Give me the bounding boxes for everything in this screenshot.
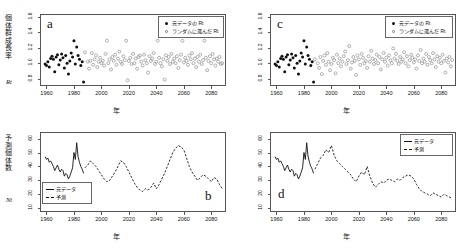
x-tick-mark (414, 86, 415, 89)
x-tick-mark (414, 212, 415, 215)
y-tick-mark (38, 194, 41, 195)
dashed-line-icon (46, 197, 54, 198)
legend-label: 元データの Rt (172, 19, 203, 27)
legend-item: 元データの Rt (389, 19, 449, 27)
y-tick-mark (268, 63, 271, 64)
y-tick-label: 60 (27, 130, 33, 146)
x-tick-label: 2000 (320, 90, 342, 96)
x-tick-mark (74, 212, 75, 215)
legend-item: 予測 (46, 193, 88, 201)
panel-d-xlabel: 年 (326, 231, 366, 241)
panel-c: c 0.81.01.21.41.6 1960198020002020204020… (232, 0, 463, 125)
y-tick-mark (38, 17, 41, 18)
legend-label: 元データの Rt (399, 19, 430, 27)
x-tick-mark (331, 86, 332, 89)
x-tick-mark (359, 86, 360, 89)
x-tick-label: 1980 (63, 90, 85, 96)
panel-c-legend: 元データの Rt ランダムに選んだ Rt (385, 16, 453, 38)
y-tick-mark (268, 79, 271, 80)
y-tick-label: 0.8 (27, 70, 33, 86)
solid-line-icon (404, 141, 412, 142)
x-tick-label: 2020 (118, 90, 140, 96)
x-tick-label: 2040 (375, 216, 397, 222)
y-tick-label: 1.4 (27, 23, 33, 39)
panel-b-xlabel: 年 (96, 231, 136, 241)
x-tick-label: 2080 (200, 90, 222, 96)
x-tick-mark (101, 86, 102, 89)
x-tick-label: 2000 (320, 216, 342, 222)
legend-item: 元データ (46, 185, 88, 193)
x-tick-mark (211, 212, 212, 215)
x-tick-label: 1980 (63, 216, 85, 222)
x-tick-label: 1960 (35, 90, 57, 96)
y-tick-label: 60 (257, 130, 263, 146)
y-tick-mark (38, 63, 41, 64)
x-tick-mark (184, 86, 185, 89)
x-tick-mark (129, 86, 130, 89)
x-tick-mark (441, 86, 442, 89)
x-tick-mark (386, 212, 387, 215)
x-tick-mark (101, 212, 102, 215)
x-tick-mark (276, 86, 277, 89)
x-tick-mark (184, 212, 185, 215)
panel-b-ylabel-symbol: Nt (6, 196, 12, 203)
y-tick-mark (268, 32, 271, 33)
x-tick-label: 2080 (430, 216, 452, 222)
y-tick-mark (38, 48, 41, 49)
y-tick-label: 1.6 (257, 8, 263, 24)
panel-b: 予測個体数 Nt b 102030405060 1960198020002020… (0, 124, 232, 249)
x-tick-mark (74, 86, 75, 89)
panel-d-legend: 元データ 予測 (400, 134, 453, 156)
panel-a-xlabel: 年 (96, 105, 136, 115)
panel-c-xlabel: 年 (326, 105, 366, 115)
x-tick-mark (46, 212, 47, 215)
x-tick-mark (46, 86, 47, 89)
panel-a-ylabel: 個体群成長率 (3, 14, 13, 59)
y-tick-mark (38, 208, 41, 209)
legend-item: 予測 (404, 145, 449, 153)
legend-label: ランダムに選んだ Rt (399, 27, 445, 35)
panel-a-legend: 元データの Rt ランダムに選んだ Rt (158, 16, 224, 38)
x-tick-label: 2060 (403, 90, 425, 96)
x-tick-label: 2060 (403, 216, 425, 222)
y-tick-mark (38, 180, 41, 181)
x-tick-mark (386, 86, 387, 89)
panel-d: d 102030405060 1960198020002020204020602… (232, 124, 463, 249)
y-tick-mark (268, 17, 271, 18)
y-tick-mark (38, 153, 41, 154)
x-tick-mark (276, 212, 277, 215)
panel-a-ylabel-symbol: Rt (6, 78, 12, 85)
x-tick-label: 2040 (145, 216, 167, 222)
dashed-line-icon (404, 149, 412, 150)
y-tick-mark (268, 139, 271, 140)
panel-b-legend: 元データ 予測 (42, 182, 92, 204)
legend-label: 元データ (414, 137, 434, 145)
x-tick-mark (156, 86, 157, 89)
legend-label: ランダムに選んだ Rt (172, 27, 218, 35)
x-tick-label: 2060 (173, 216, 195, 222)
y-tick-label: 0.8 (257, 70, 263, 86)
open-circle-icon (389, 30, 397, 33)
x-tick-mark (359, 212, 360, 215)
x-tick-label: 2000 (90, 216, 112, 222)
y-tick-label: 1.2 (27, 39, 33, 55)
x-tick-label: 1980 (293, 216, 315, 222)
legend-label: 元データ (56, 185, 76, 193)
y-tick-label: 10 (257, 199, 263, 215)
figure-panel-grid: 個体群成長率 Rt a 0.81.01.21.41.6 196019802000… (0, 0, 463, 249)
y-tick-mark (268, 208, 271, 209)
y-tick-mark (38, 166, 41, 167)
legend-item: 元データの Rt (162, 19, 220, 27)
y-tick-mark (38, 32, 41, 33)
x-tick-label: 2020 (118, 216, 140, 222)
y-tick-label: 1.6 (27, 8, 33, 24)
x-tick-mark (331, 212, 332, 215)
x-tick-mark (304, 86, 305, 89)
legend-item: ランダムに選んだ Rt (162, 27, 220, 35)
y-tick-mark (268, 153, 271, 154)
filled-circle-icon (389, 22, 397, 25)
y-tick-label: 1.0 (257, 54, 263, 70)
panel-b-letter: b (205, 188, 212, 204)
x-tick-label: 1960 (35, 216, 57, 222)
x-tick-mark (441, 212, 442, 215)
